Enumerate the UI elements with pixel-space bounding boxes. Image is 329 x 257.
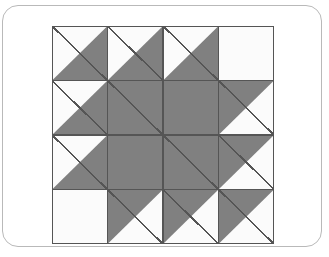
tile-base-r3c2: [108, 135, 164, 190]
tile-base-r2c3: [163, 81, 219, 136]
pattern-grid-svg: [52, 26, 274, 244]
tile-base-r1c4: [219, 26, 275, 81]
pattern-grid: [52, 26, 274, 244]
figure-card: Tiled triangle pattern Four-by-four grid…: [2, 5, 322, 247]
figure-canvas: Tiled triangle pattern Four-by-four grid…: [0, 0, 329, 257]
tile-base-r4c1: [52, 190, 108, 245]
